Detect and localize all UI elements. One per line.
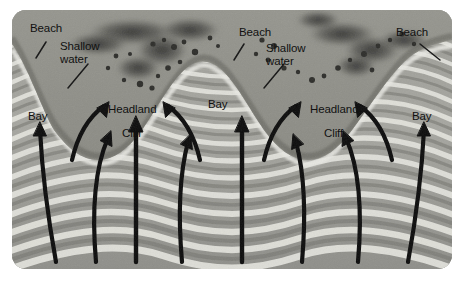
label-shallow-water-left-line2: water xyxy=(60,53,100,66)
label-beach-center: Beach xyxy=(239,26,271,38)
label-headland-right: Headland xyxy=(310,103,358,115)
label-cliff-left: Cliff xyxy=(122,127,141,139)
label-bay-left: Bay xyxy=(28,110,48,122)
label-shallow-water-left-line1: Shallow xyxy=(60,40,100,53)
label-beach-right: Beach xyxy=(396,26,428,38)
label-bay-right: Bay xyxy=(412,110,432,122)
label-shallow-water-center-line2: water xyxy=(266,55,306,68)
label-beach-left: Beach xyxy=(30,22,62,34)
label-shallow-water-center-line1: Shallow xyxy=(266,42,306,55)
label-shallow-water-center: Shallow water xyxy=(266,42,306,68)
figure-root: Beach Shallow water Bay Headland Cliff B… xyxy=(0,0,465,285)
label-headland-left: Headland xyxy=(108,103,156,115)
label-shallow-water-left: Shallow water xyxy=(60,40,100,66)
label-cliff-right: Cliff xyxy=(324,127,343,139)
label-bay-center: Bay xyxy=(208,98,228,110)
